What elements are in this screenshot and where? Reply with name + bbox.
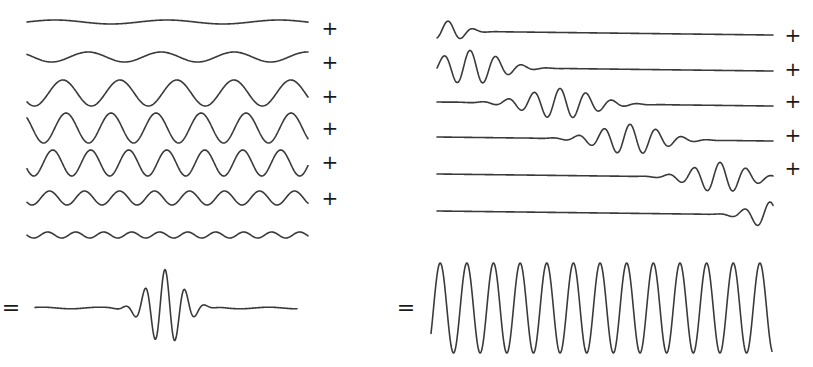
plus-sign-left-4: +: [322, 118, 339, 138]
plus-sign-right-5: +: [785, 158, 802, 178]
wave-packet-component-4: [437, 124, 773, 153]
wave-packet-component-2: [437, 50, 773, 82]
plus-sign-right-2: +: [785, 59, 802, 79]
plus-sign-left-3: +: [322, 86, 339, 106]
plus-sign-left-5: +: [322, 152, 339, 172]
sine-component-1: [27, 20, 308, 24]
wave-packet-component-5: [437, 162, 773, 191]
left-sine-components: [27, 20, 308, 238]
right-packet-components: [437, 21, 773, 225]
sine-component-5: [27, 150, 308, 176]
plus-sign-right-1: +: [785, 25, 802, 45]
wave-packet-component-6: [437, 202, 773, 225]
plus-sign-right-4: +: [785, 125, 802, 145]
sine-component-3: [27, 80, 308, 106]
plus-sign-right-3: +: [785, 91, 802, 111]
wave-packet-component-1: [437, 21, 773, 38]
wave-packet-component-3: [437, 88, 773, 117]
sine-component-7: [27, 232, 308, 238]
sine-component-2: [27, 52, 308, 62]
plus-sign-left-1: +: [322, 18, 339, 38]
sine-component-4: [27, 113, 308, 143]
sine-wave-result: [431, 263, 772, 353]
equals-sign-left: =: [2, 297, 20, 319]
plus-sign-left-6: +: [322, 188, 339, 208]
plus-sign-left-2: +: [322, 52, 339, 72]
wave-packet-result: [35, 270, 297, 341]
sine-component-6: [27, 191, 308, 205]
equals-sign-right: =: [397, 297, 415, 319]
